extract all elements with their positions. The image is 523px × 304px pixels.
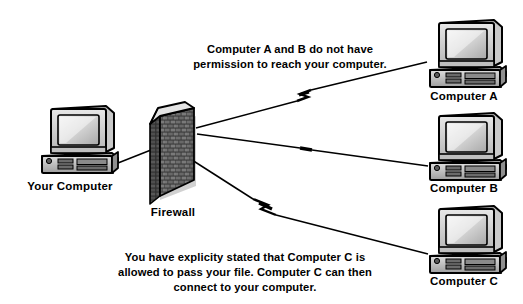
desktop-computer-icon — [430, 206, 506, 274]
node-label-firewall: Firewall — [151, 206, 195, 218]
caption-allow-line-1: You have explicity stated that Computer … — [125, 251, 365, 263]
link-firewall-computer-b — [197, 134, 428, 166]
node-your-computer[interactable]: Your Computer — [27, 106, 118, 192]
desktop-computer-icon — [430, 20, 506, 88]
desktop-computer-icon — [430, 113, 506, 181]
brick-wall-icon — [150, 102, 196, 204]
node-label-computer-c: Computer C — [430, 275, 498, 287]
caption-deny-line-1: Computer A and B do not have — [207, 43, 373, 55]
network-diagram: Your Computer Firewall Computer A — [0, 0, 523, 304]
node-computer-b[interactable]: Computer B — [430, 113, 506, 194]
caption-deny: Computer A and B do not have permission … — [193, 43, 387, 70]
node-firewall[interactable]: Firewall — [150, 102, 196, 218]
caption-allow: You have explicity stated that Computer … — [118, 251, 372, 293]
desktop-computer-icon — [42, 106, 118, 174]
link-firewall-computer-a — [196, 62, 427, 128]
break-marker-a — [299, 92, 309, 95]
node-label-your-computer: Your Computer — [27, 180, 113, 192]
node-computer-c[interactable]: Computer C — [430, 206, 506, 287]
caption-allow-line-2: allowed to pass your file. Computer C ca… — [118, 266, 372, 278]
caption-allow-line-3: connect to your computer. — [174, 281, 317, 293]
node-computer-a[interactable]: Computer A — [430, 20, 506, 102]
diagram-canvas: Your Computer Firewall Computer A — [0, 0, 523, 304]
node-label-computer-a: Computer A — [430, 90, 497, 102]
node-label-computer-b: Computer B — [430, 182, 498, 194]
caption-deny-line-2: permission to reach your computer. — [193, 58, 387, 70]
link-firewall-computer-c — [192, 160, 428, 254]
